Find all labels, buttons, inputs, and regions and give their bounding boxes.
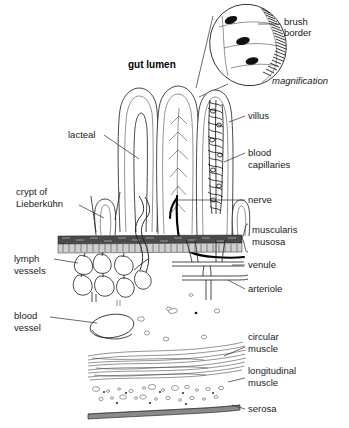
blood-vessel-label-line1: blood [14, 310, 37, 321]
muscularis-mucosa-lower-band [58, 243, 242, 253]
longitudinal-muscle-cell [214, 396, 218, 399]
muscularis-mucosa-upper-band [58, 235, 242, 244]
villus-2 [157, 86, 199, 234]
lacteal-label: lacteal [68, 129, 95, 140]
longitudinal-muscle-cell [206, 387, 210, 390]
villus-1 [118, 88, 158, 232]
longitudinal-muscle-cell [142, 387, 145, 390]
longitudinal-muscle-cell [190, 396, 194, 399]
blood-capillaries-label-line1: blood [248, 147, 271, 158]
submucosa-cell [214, 309, 219, 313]
muscularis-label-line1: muscularis [252, 224, 298, 235]
blood-capillaries-label-line2: capillaries [248, 159, 290, 170]
submucosa-cell [144, 331, 149, 335]
longitudinal-muscle-cell [161, 389, 164, 392]
villus-label: villus [248, 110, 269, 121]
longitudinal-muscle-cell [120, 395, 127, 399]
longitudinal-muscle-cell [111, 397, 114, 399]
longitudinal-muscle-cell [185, 385, 190, 388]
longitudinal-muscle-label-line2: muscle [248, 377, 278, 388]
crypt-3-outline [232, 200, 250, 236]
submucosa-cell [163, 337, 169, 341]
longitudinal-muscle-cell [195, 389, 198, 392]
circular-muscle-label-line2: muscle [248, 343, 278, 354]
longitudinal-muscle-cell [179, 399, 182, 401]
submucosa-cell [189, 294, 193, 297]
longitudinal-muscle-cell [129, 389, 133, 392]
muscularis-label-line2: musosa [252, 236, 286, 247]
brush-border-label-line2: border [284, 27, 311, 38]
gut-lumen-label: gut lumen [128, 59, 176, 70]
longitudinal-muscle-cell [218, 386, 223, 390]
longitudinal-muscle-cell [148, 385, 156, 390]
crypt-label-line2: Lieberkühn [16, 198, 63, 209]
submucosa-cell [138, 317, 145, 321]
circular-muscle-label-line1: circular [248, 331, 279, 342]
magnification-label: magnification [272, 75, 328, 86]
longitudinal-muscle-dot [125, 392, 127, 394]
longitudinal-muscle-cell [99, 397, 103, 400]
muscularis-mucosa [58, 235, 242, 253]
longitudinal-muscle-dot [116, 402, 118, 404]
blood-vessel-label-line2: vessel [14, 322, 41, 333]
lymph-vessels-label-line2: vessels [14, 265, 46, 276]
venule-label: venule [248, 259, 276, 270]
longitudinal-muscle-dot [182, 392, 184, 394]
lymph-vessels-label-line1: lymph [14, 253, 39, 264]
brush-border-label-line1: brush [284, 16, 308, 27]
longitudinal-muscle-cell [106, 390, 109, 393]
crypt-label-line1: crypt of [16, 186, 48, 197]
nerve-label: nerve [248, 194, 272, 205]
longitudinal-muscle-cell [171, 386, 178, 391]
longitudinal-muscle-label-line1: longitudinal [248, 365, 296, 376]
serosa-label: serosa [248, 403, 277, 414]
longitudinal-muscle-dot [212, 392, 214, 394]
longitudinal-muscle-cell [155, 398, 158, 400]
longitudinal-muscle-dot [103, 391, 105, 393]
longitudinal-muscle-cell [140, 395, 146, 399]
crypt-outline [95, 199, 116, 235]
intestine-wall-diagram: brush border magnification gut lumen [0, 0, 349, 428]
submucosa-cell [195, 312, 198, 314]
longitudinal-muscle-cell [118, 388, 121, 390]
longitudinal-muscle-dot [159, 391, 161, 393]
longitudinal-muscle-dot [149, 402, 151, 404]
arteriole-label: arteriole [248, 283, 282, 294]
longitudinal-muscle-cell [203, 398, 206, 400]
longitudinal-muscle-cell [166, 396, 170, 399]
longitudinal-muscle-cell [134, 397, 137, 400]
villus-3 [196, 90, 233, 236]
submucosa-cell [201, 335, 206, 339]
longitudinal-muscle-dot [185, 403, 187, 405]
crypt-3 [232, 200, 250, 236]
longitudinal-muscle-cell [92, 387, 99, 392]
